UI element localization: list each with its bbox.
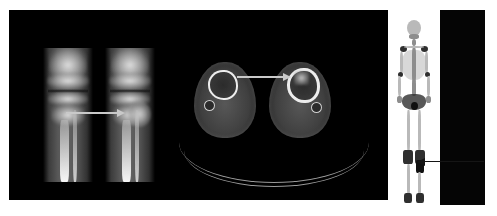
right-ankle-foot xyxy=(404,193,412,203)
left-humerus xyxy=(425,52,428,74)
sacrum-bladder-activity xyxy=(411,102,418,110)
fibular-shaft xyxy=(135,110,139,182)
axial-arrow-head xyxy=(283,73,291,81)
left-femur xyxy=(418,110,421,152)
left-tibia-cortical-lesion xyxy=(294,71,309,85)
fibular-shaft xyxy=(73,110,77,182)
tibial-shaft xyxy=(60,120,69,182)
whole-body-skeleton xyxy=(388,10,440,206)
scan-arrow-head xyxy=(417,158,425,166)
femoral-condyles xyxy=(109,73,151,89)
bone-scan-panel xyxy=(388,10,440,206)
cervical-spine xyxy=(412,39,416,46)
scan-arrow-shaft xyxy=(424,161,484,162)
left-hand xyxy=(426,96,431,103)
medical-imaging-figure xyxy=(0,0,497,216)
femoral-condyles xyxy=(47,73,89,89)
right-fibula-cortex xyxy=(204,100,215,111)
right-knee-uptake xyxy=(403,150,413,164)
right-forearm xyxy=(398,76,401,96)
coronal-arrow-shaft xyxy=(66,112,118,114)
right-humerus xyxy=(400,52,403,74)
coronal-ct-left-knee xyxy=(104,48,156,182)
axial-arrow-shaft xyxy=(237,76,285,78)
coronal-arrow-head xyxy=(117,109,125,117)
right-femur xyxy=(407,110,410,152)
coronal-ct-right-knee xyxy=(42,48,94,182)
right-tibia xyxy=(407,164,410,196)
ct-table-edge-lower xyxy=(184,114,364,187)
thoracic-spine xyxy=(412,48,416,82)
left-forearm xyxy=(427,76,430,96)
tibial-lesion xyxy=(128,101,151,127)
blackout-panel xyxy=(440,10,485,205)
tibial-shaft xyxy=(122,120,131,182)
right-tibia-cortex xyxy=(208,70,238,100)
left-ankle-foot xyxy=(416,193,424,203)
ct-panel xyxy=(9,10,388,200)
